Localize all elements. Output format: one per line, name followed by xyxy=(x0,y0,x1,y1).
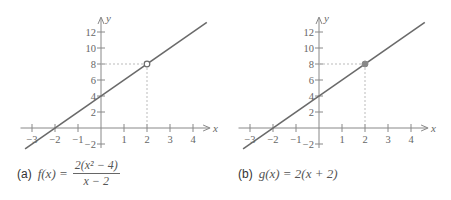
function-line xyxy=(243,22,425,148)
x-axis-label: x xyxy=(430,122,436,134)
caption-b: (b) g(x) = 2(x + 2) xyxy=(238,166,338,182)
caption-b-label: (b) xyxy=(238,167,253,181)
open-point-icon xyxy=(144,61,150,67)
x-tick-label: 4 xyxy=(408,134,414,145)
y-tick-label: 10 xyxy=(86,43,97,54)
y-tick-label: 2 xyxy=(91,107,96,118)
y-tick-label: −2 xyxy=(303,139,314,150)
x-tick-label: −1 xyxy=(290,134,301,145)
y-axis-label: y xyxy=(105,12,111,24)
x-tick-label: 3 xyxy=(167,134,172,145)
function-line xyxy=(25,22,207,148)
x-tick-label: 1 xyxy=(339,134,344,145)
caption-a: (a) f(x) = 2(x² − 4) x − 2 xyxy=(17,158,120,189)
x-tick-label: 3 xyxy=(385,134,390,145)
y-tick-label: 8 xyxy=(309,59,314,70)
denominator: x − 2 xyxy=(84,174,109,189)
x-tick-label: −2 xyxy=(49,134,60,145)
y-tick-label: 2 xyxy=(309,107,314,118)
y-tick-label: 8 xyxy=(91,59,96,70)
x-tick-label: 2 xyxy=(362,134,367,145)
caption-a-label: (a) xyxy=(17,167,32,181)
x-tick-label: 4 xyxy=(190,134,196,145)
y-tick-label: 6 xyxy=(91,75,96,86)
x-axis-label: x xyxy=(212,122,218,134)
x-tick-label: 2 xyxy=(144,134,149,145)
caption-b-expr: g(x) = 2(x + 2) xyxy=(259,166,338,182)
y-tick-label: 12 xyxy=(304,27,315,38)
numerator: 2(x² − 4) xyxy=(73,158,120,174)
fraction: 2(x² − 4) x − 2 xyxy=(73,158,120,189)
filled-point-icon xyxy=(362,61,368,67)
x-tick-label: −2 xyxy=(267,134,278,145)
x-tick-label: −1 xyxy=(72,134,83,145)
y-tick-label: 12 xyxy=(86,27,97,38)
y-tick-label: −2 xyxy=(85,139,96,150)
y-tick-label: 6 xyxy=(309,75,314,86)
y-axis-label: y xyxy=(323,12,329,24)
x-tick-label: 1 xyxy=(121,134,126,145)
y-tick-label: 10 xyxy=(304,43,315,54)
caption-a-lhs: f(x) = xyxy=(38,166,68,182)
